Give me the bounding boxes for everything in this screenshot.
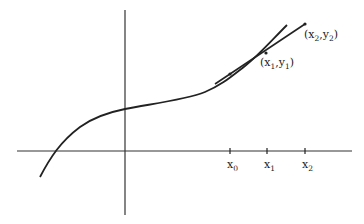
tick-label-x0: x0 — [227, 158, 238, 173]
tick-label-x2: x2 — [302, 158, 313, 173]
tick-label-x1: x1 — [264, 158, 275, 173]
diagram: x0 x1 x2 (x1,y1) (x2,y2) — [0, 0, 364, 224]
secant-line — [215, 24, 305, 84]
diagram-canvas: x0 x1 x2 (x1,y1) (x2,y2) — [0, 0, 364, 224]
function-curve — [40, 25, 287, 177]
point-x2-y2 — [303, 22, 306, 25]
point-label-x2-y2: (x2,y2) — [304, 28, 338, 43]
point-label-x1-y1: (x1,y1) — [260, 56, 294, 71]
point-x0-y0 — [228, 72, 231, 75]
point-x1-y1 — [264, 51, 267, 54]
